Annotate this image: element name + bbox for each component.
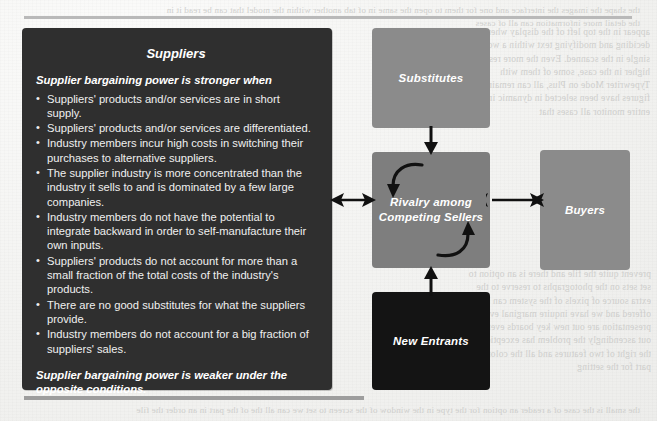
- arrow-new-entrants-to-rivalry-icon: [408, 264, 454, 296]
- suppliers-title: Suppliers: [36, 46, 316, 61]
- curved-arrow-clockwise-bottom-icon: [434, 216, 476, 260]
- arrow-rivalry-buyers-double-icon: [486, 188, 544, 212]
- suppliers-bullet-list: Suppliers' products and/or services are …: [36, 92, 316, 356]
- list-item: Suppliers' products and/or services are …: [36, 92, 316, 121]
- suppliers-footer-text: Supplier bargaining power is weaker unde…: [36, 368, 316, 397]
- bleed-through-text-bottom: the small is the case of a reader an opt…: [120, 404, 640, 417]
- buyers-box: Buyers: [540, 150, 630, 270]
- suppliers-lead-text: Supplier bargaining power is stronger wh…: [36, 73, 316, 88]
- page-canvas: the shape the images the interface and o…: [0, 0, 657, 421]
- list-item: Industry members do not account for a bi…: [36, 327, 316, 356]
- list-item: Suppliers' products and/or services are …: [36, 121, 316, 135]
- buyers-label: Buyers: [565, 204, 605, 216]
- arrow-substitutes-to-rivalry-icon: [408, 126, 454, 156]
- suppliers-panel: Suppliers Supplier bargaining power is s…: [22, 28, 332, 390]
- list-item: There are no good substitutes for what t…: [36, 298, 316, 327]
- new-entrants-label: New Entrants: [393, 335, 469, 347]
- list-item: Industry members incur high costs in swi…: [36, 136, 316, 165]
- substitutes-label: Substitutes: [399, 72, 464, 84]
- arrow-suppliers-rivalry-double-icon: [330, 188, 376, 212]
- list-item: The supplier industry is more concentrat…: [36, 166, 316, 209]
- list-item: Suppliers' products do not account for m…: [36, 254, 316, 297]
- horizontal-rule-top: [24, 16, 632, 19]
- list-item: Industry members do not have the potenti…: [36, 210, 316, 253]
- new-entrants-box: New Entrants: [372, 292, 490, 390]
- curved-arrow-clockwise-top-icon: [386, 160, 426, 202]
- substitutes-box: Substitutes: [372, 28, 490, 128]
